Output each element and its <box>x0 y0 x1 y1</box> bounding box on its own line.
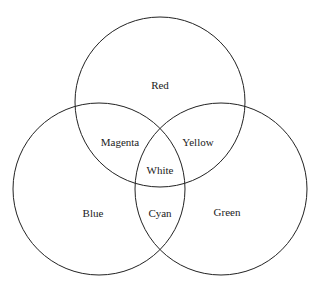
circle-red <box>75 17 245 187</box>
label-red: Red <box>151 79 169 91</box>
label-white: White <box>147 164 174 176</box>
label-blue: Blue <box>83 207 104 219</box>
label-green: Green <box>214 206 241 218</box>
venn-svg: Red Blue Green Magenta Yellow Cyan White <box>0 0 319 291</box>
label-magenta: Magenta <box>101 136 140 148</box>
label-yellow: Yellow <box>182 136 213 148</box>
label-cyan: Cyan <box>148 207 172 219</box>
venn-diagram: Red Blue Green Magenta Yellow Cyan White <box>0 0 319 291</box>
